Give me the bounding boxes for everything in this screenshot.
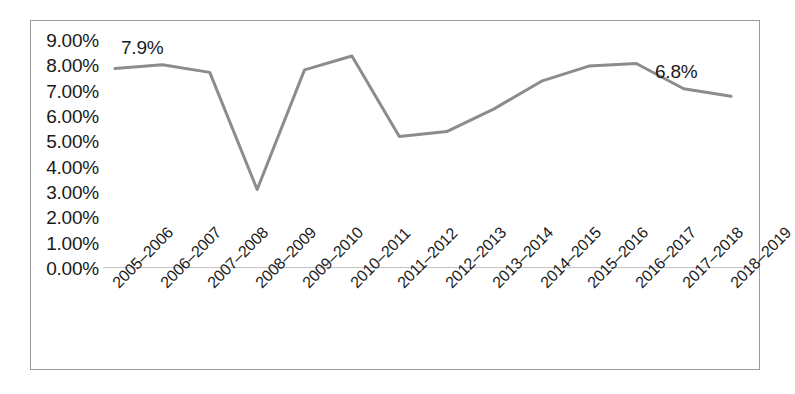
y-axis-tick-label: 6.00%	[46, 106, 99, 128]
y-axis-tick-label: 5.00%	[46, 131, 99, 153]
chart-container: 9.00%8.00%7.00%6.00%5.00%4.00%3.00%2.00%…	[30, 20, 760, 370]
x-axis: 2005–20062006–20072007–20082008–20092009…	[103, 21, 751, 369]
chart-plot-wrapper: 9.00%8.00%7.00%6.00%5.00%4.00%3.00%2.00%…	[31, 21, 759, 369]
y-axis-tick-label: 4.00%	[46, 157, 99, 179]
y-axis-tick-label: 7.00%	[46, 81, 99, 103]
y-axis-tick-label: 2.00%	[46, 207, 99, 229]
y-axis-tick-label: 0.00%	[46, 258, 99, 280]
y-axis: 9.00%8.00%7.00%6.00%5.00%4.00%3.00%2.00%…	[31, 21, 99, 369]
y-axis-tick-label: 1.00%	[46, 233, 99, 255]
y-axis-tick-label: 3.00%	[46, 182, 99, 204]
y-axis-tick-label: 9.00%	[46, 30, 99, 52]
y-axis-tick-label: 8.00%	[46, 55, 99, 77]
